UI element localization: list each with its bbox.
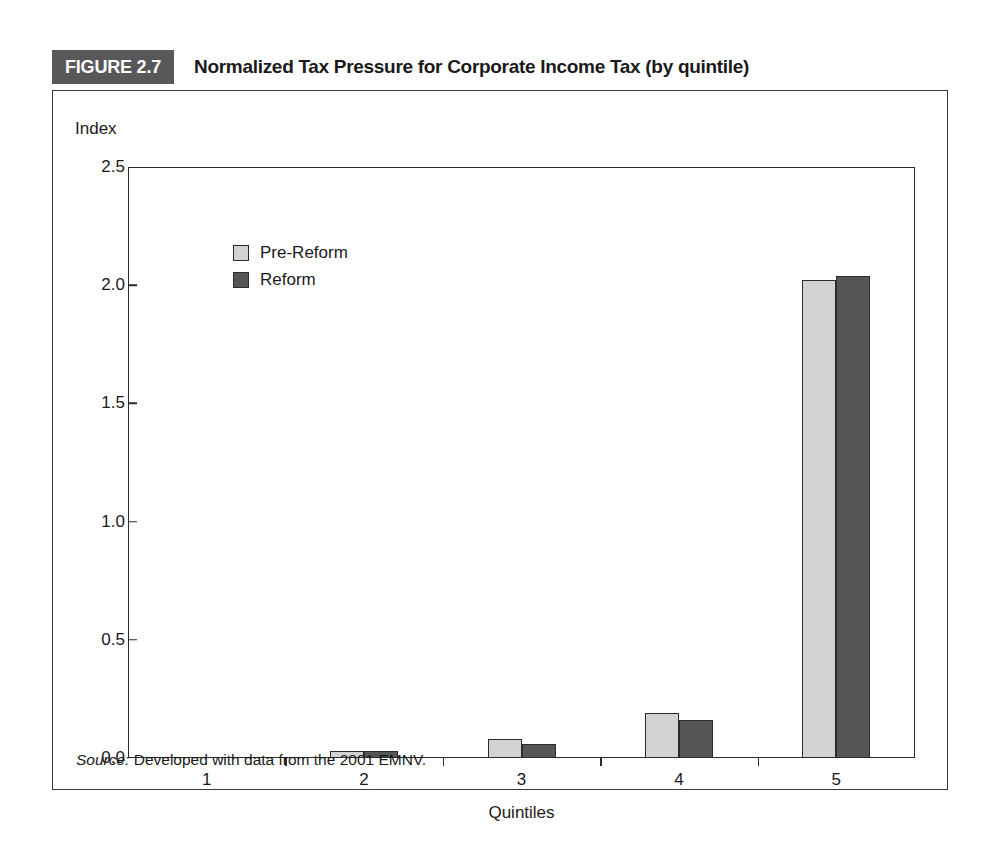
bar-reform-q3 [522,744,556,758]
source-note: Source: Developed with data from the 200… [76,751,426,769]
bar-pre-reform-q4 [645,713,679,758]
bar-reform-q5 [836,276,870,758]
source-text: Developed with data from the 2001 EMNV. [129,751,426,768]
x-axis-tick-label: 1 [202,770,211,790]
chart-area: Index 0.00.51.01.52.02.5 12345 Quintiles… [53,91,949,791]
figure-title: Normalized Tax Pressure for Corporate In… [174,50,749,84]
x-axis-title: Quintiles [128,803,915,823]
x-axis-tick-label: 4 [674,770,683,790]
figure-frame: Index 0.00.51.01.52.02.5 12345 Quintiles… [52,90,948,790]
x-axis-tick-label: 2 [359,770,368,790]
x-axis-tick-label: 3 [517,770,526,790]
y-axis-tick-label: 0.5 [53,630,125,650]
legend-item-pre-reform: Pre-Reform [233,239,348,266]
legend-item-reform: Reform [233,266,348,293]
y-axis-tick-label: 2.5 [53,157,125,177]
bar-pre-reform-q3 [488,739,522,758]
legend-swatch-icon-reform [233,272,249,288]
figure-header: FIGURE 2.7 Normalized Tax Pressure for C… [52,50,948,84]
y-axis-tick-mark [128,521,137,523]
figure-page: FIGURE 2.7 Normalized Tax Pressure for C… [0,0,996,844]
figure-number-badge: FIGURE 2.7 [52,50,174,84]
x-axis-tick-mark [758,758,760,766]
source-label: Source: [76,751,129,768]
legend-label-reform: Reform [260,270,316,290]
y-axis-tick-mark [128,403,137,405]
x-axis-tick-mark [443,758,445,766]
x-axis-tick-label: 5 [832,770,841,790]
y-axis-tick-mark [128,639,137,641]
y-axis-unit-label: Index [75,119,117,139]
y-axis-tick-label: 2.0 [53,275,125,295]
chart-legend: Pre-Reform Reform [233,239,348,293]
y-axis-tick-label: 1.0 [53,512,125,532]
y-axis-tick-label: 1.5 [53,393,125,413]
legend-label-pre-reform: Pre-Reform [260,243,348,263]
bar-reform-q4 [679,720,713,758]
y-axis-tick-mark [128,284,137,286]
x-axis-tick-mark [600,758,602,766]
legend-swatch-icon-pre-reform [233,245,249,261]
bar-pre-reform-q5 [802,280,836,758]
